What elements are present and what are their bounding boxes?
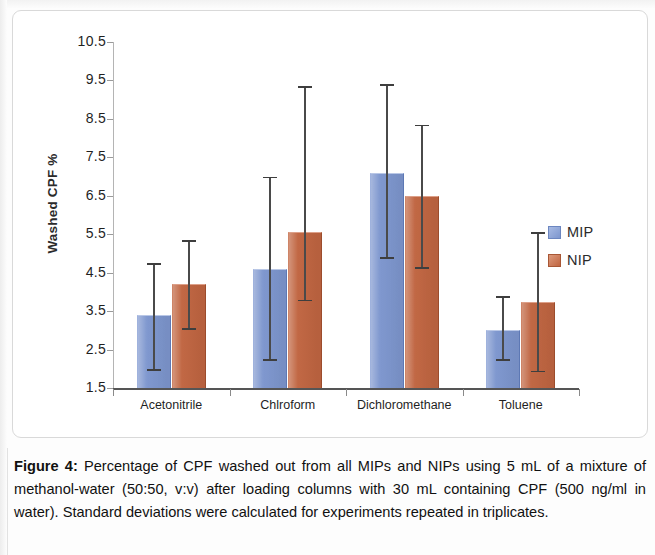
error-bar-cap-lower	[415, 267, 429, 269]
x-axis-category-label: Acetonitrile	[113, 398, 230, 412]
y-axis-tick-label: 10.5	[58, 33, 106, 49]
error-bar-cap-lower	[298, 300, 312, 302]
y-axis-tick-label: 6.5	[58, 187, 106, 203]
error-bar-cap-lower	[182, 328, 196, 330]
x-axis-category-label: Toluene	[463, 398, 580, 412]
error-bar-cap-upper	[298, 86, 312, 88]
legend-swatch-icon	[548, 226, 561, 239]
y-axis-tick-label: 7.5	[58, 148, 106, 164]
bar-chart-plot-area: Washed CPF % 1.52.53.54.55.56.57.58.59.5…	[0, 0, 655, 440]
error-bar-line	[304, 86, 306, 299]
chart-legend: MIPNIP	[548, 218, 593, 274]
y-axis-tick-label: 2.5	[58, 341, 106, 357]
error-bar-cap-lower	[147, 369, 161, 371]
y-axis-tick-label: 5.5	[58, 225, 106, 241]
x-axis-category-label: Dichloromethane	[346, 398, 463, 412]
error-bar-cap-upper	[147, 263, 161, 265]
y-axis-tick-label: 1.5	[58, 379, 106, 395]
caption-rule	[7, 448, 8, 555]
error-bar-cap-lower	[496, 359, 510, 361]
legend-item-mip[interactable]: MIP	[548, 218, 593, 246]
error-bar-cap-lower	[531, 371, 545, 373]
error-bar-line	[153, 263, 155, 369]
error-bar-cap-upper	[263, 177, 277, 179]
y-axis-tick-label: 3.5	[58, 302, 106, 318]
y-axis-line	[113, 42, 114, 389]
legend-label: NIP	[567, 252, 592, 268]
figure-page: Washed CPF % 1.52.53.54.55.56.57.58.59.5…	[0, 0, 655, 555]
y-axis-tick-label: 9.5	[58, 71, 106, 87]
error-bar-cap-lower	[263, 359, 277, 361]
error-bar-cap-upper	[496, 296, 510, 298]
error-bar-cap-upper	[182, 240, 196, 242]
y-axis-tick-label: 4.5	[58, 264, 106, 280]
error-bar-line	[537, 232, 539, 370]
error-bar-line	[421, 125, 423, 267]
y-axis-tick-label: 8.5	[58, 110, 106, 126]
error-bar-line	[386, 84, 388, 257]
legend-item-nip[interactable]: NIP	[548, 246, 593, 274]
legend-swatch-icon	[548, 254, 561, 267]
legend-label: MIP	[567, 224, 593, 240]
figure-caption: Figure 4: Percentage of CPF washed out f…	[14, 455, 646, 524]
y-axis-tick-labels: 1.52.53.54.55.56.57.58.59.510.5	[58, 0, 106, 440]
x-axis-tick-mark	[463, 389, 464, 396]
figure-caption-body: Percentage of CPF washed out from all MI…	[14, 458, 646, 520]
error-bar-cap-upper	[531, 232, 545, 234]
error-bar-line	[269, 177, 271, 360]
error-bar-cap-upper	[380, 84, 394, 86]
x-axis-tick-mark	[230, 389, 231, 396]
error-bar-line	[188, 240, 190, 328]
x-axis-tick-mark	[113, 389, 114, 396]
x-axis-tick-mark	[346, 389, 347, 396]
x-axis-tick-mark	[579, 389, 580, 396]
x-axis-category-label: Chlroform	[230, 398, 347, 412]
error-bar-cap-lower	[380, 257, 394, 259]
error-bar-cap-upper	[415, 125, 429, 127]
figure-caption-label: Figure 4:	[14, 458, 78, 474]
error-bar-line	[502, 296, 504, 359]
